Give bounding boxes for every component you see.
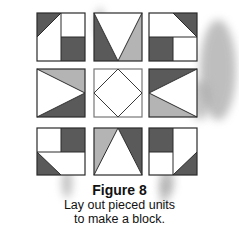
block-middle-right <box>149 69 197 117</box>
block-center <box>94 69 142 117</box>
figure-caption: Figure 8 Lay out pieced units to make a … <box>0 182 239 226</box>
block-top-left <box>37 13 85 61</box>
caption-line-2: to make a block. <box>0 212 239 226</box>
block-bottom-center <box>94 128 142 175</box>
block-top-right <box>149 13 197 61</box>
block-top-center <box>94 13 142 61</box>
block-bottom-left <box>37 128 85 175</box>
figure-label: Figure 8 <box>0 182 239 198</box>
caption-line-1: Lay out pieced units <box>0 198 239 212</box>
block-bottom-right <box>149 128 197 175</box>
block-middle-left <box>37 69 85 117</box>
